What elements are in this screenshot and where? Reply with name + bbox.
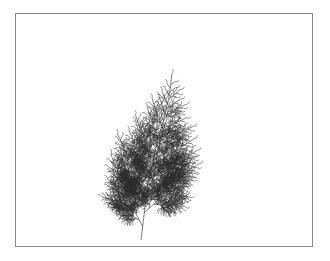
fractal-plant-drawing [0, 0, 330, 261]
